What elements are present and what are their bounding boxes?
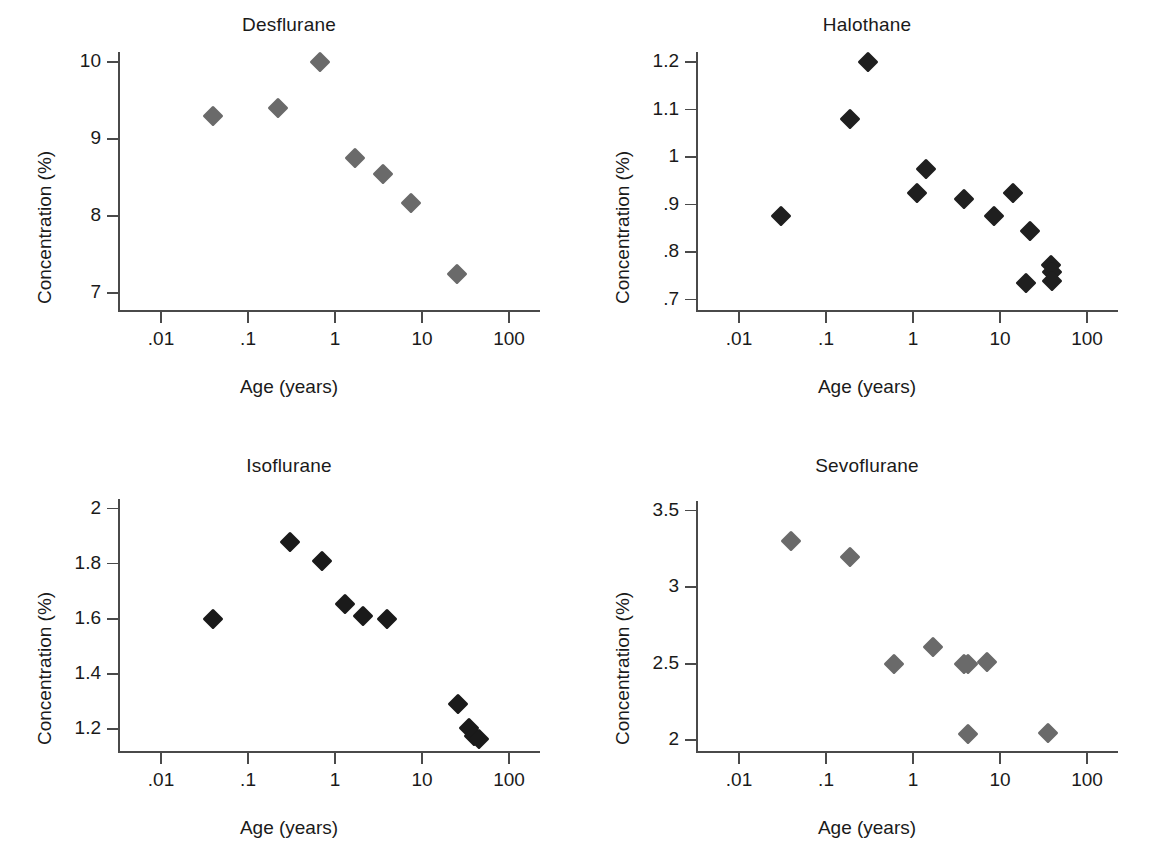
y-tick-label: .9: [663, 193, 679, 215]
data-point-marker: [781, 531, 802, 552]
data-point-marker: [883, 653, 904, 674]
x-tick-label: 100: [1047, 328, 1127, 350]
data-point-marker: [770, 206, 791, 227]
y-tick: [107, 138, 118, 140]
y-tick: [685, 663, 696, 665]
x-tick-label: .01: [121, 769, 201, 791]
y-tick: [107, 292, 118, 294]
y-tick: [685, 251, 696, 253]
x-tick: [738, 753, 740, 764]
y-tick: [685, 61, 696, 63]
x-tick: [1086, 753, 1088, 764]
y-tick-label: .8: [663, 240, 679, 262]
y-tick-label: 10: [80, 50, 101, 72]
data-point-marker: [953, 188, 974, 209]
y-tick: [685, 156, 696, 158]
y-tick: [107, 563, 118, 565]
x-tick: [825, 753, 827, 764]
data-point-marker: [334, 593, 355, 614]
x-tick: [160, 312, 162, 323]
y-tick-label: 1: [668, 145, 679, 167]
y-tick-label: 1.8: [75, 552, 101, 574]
y-axis-label: Concentration (%): [612, 592, 634, 745]
x-tick-label: .1: [786, 328, 866, 350]
x-axis-line: [118, 310, 540, 312]
data-point-marker: [401, 192, 422, 213]
x-axis-label: Age (years): [578, 376, 1156, 398]
x-tick-label: .01: [699, 769, 779, 791]
data-point-marker: [923, 636, 944, 657]
panel-title: Sevoflurane: [578, 455, 1156, 477]
y-tick: [685, 299, 696, 301]
x-tick-label: .1: [208, 769, 288, 791]
data-point-marker: [377, 608, 398, 629]
y-axis-line: [118, 499, 120, 751]
data-point-marker: [857, 51, 878, 72]
y-tick: [685, 510, 696, 512]
y-axis-line: [696, 52, 698, 310]
x-tick-label: 100: [469, 769, 549, 791]
y-tick: [107, 508, 118, 510]
data-point-marker: [958, 724, 979, 745]
data-point-marker: [448, 694, 469, 715]
caption-artifact: [0, 826, 1156, 835]
data-point-marker: [840, 546, 861, 567]
y-tick-label: 9: [90, 127, 101, 149]
y-axis-line: [696, 501, 698, 751]
data-point-marker: [373, 163, 394, 184]
y-axis-line: [118, 52, 120, 310]
x-tick-label: 1: [873, 328, 953, 350]
x-tick: [508, 753, 510, 764]
x-tick: [160, 753, 162, 764]
data-point-marker: [915, 158, 936, 179]
data-point-marker: [203, 608, 224, 629]
x-tick-label: 100: [1047, 769, 1127, 791]
y-tick-label: 1.2: [653, 50, 679, 72]
y-tick: [685, 586, 696, 588]
panel-desflurane: DesfluraneConcentration (%)Age (years)78…: [0, 14, 578, 418]
data-point-marker: [983, 206, 1004, 227]
y-tick-label: 2: [668, 728, 679, 750]
y-tick: [107, 61, 118, 63]
x-tick-label: .01: [121, 328, 201, 350]
panel-halothane: HalothaneConcentration (%)Age (years).7.…: [578, 14, 1156, 418]
data-point-marker: [1038, 722, 1059, 743]
figure-root: DesfluraneConcentration (%)Age (years)78…: [0, 0, 1156, 841]
data-point-marker: [309, 51, 330, 72]
x-axis-line: [118, 751, 540, 753]
y-tick: [685, 204, 696, 206]
data-point-marker: [446, 263, 467, 284]
y-tick-label: 1.1: [653, 98, 679, 120]
y-tick: [107, 618, 118, 620]
x-axis-label: Age (years): [0, 376, 578, 398]
x-axis-line: [696, 310, 1118, 312]
panel-title: Halothane: [578, 14, 1156, 36]
y-tick-label: 1.2: [75, 717, 101, 739]
x-tick: [508, 312, 510, 323]
x-tick: [912, 753, 914, 764]
data-point-marker: [345, 148, 366, 169]
y-axis-label: Concentration (%): [612, 151, 634, 304]
x-tick: [421, 753, 423, 764]
y-tick-label: 3.5: [653, 499, 679, 521]
data-point-marker: [906, 182, 927, 203]
x-tick-label: 10: [960, 328, 1040, 350]
y-tick: [685, 109, 696, 111]
x-tick-label: 100: [469, 328, 549, 350]
x-tick: [825, 312, 827, 323]
x-tick: [912, 312, 914, 323]
panel-isoflurane: IsofluraneConcentration (%)Age (years)1.…: [0, 455, 578, 841]
x-tick-label: 10: [960, 769, 1040, 791]
panel-sevoflurane: SevofluraneConcentration (%)Age (years)2…: [578, 455, 1156, 841]
x-tick-label: .01: [699, 328, 779, 350]
data-point-marker: [840, 108, 861, 129]
y-tick-label: 1.4: [75, 662, 101, 684]
y-tick-label: .7: [663, 288, 679, 310]
x-tick: [738, 312, 740, 323]
x-tick-label: 1: [295, 769, 375, 791]
y-tick: [107, 673, 118, 675]
y-axis-label: Concentration (%): [34, 592, 56, 745]
x-axis-line: [696, 751, 1118, 753]
x-tick-label: 1: [295, 328, 375, 350]
y-tick-label: 2: [90, 497, 101, 519]
